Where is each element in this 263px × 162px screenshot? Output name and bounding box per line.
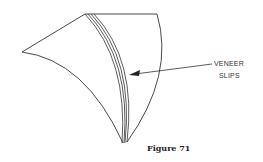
callout-label-line2: SLIPS [219, 72, 240, 79]
arrowhead-icon [129, 70, 140, 76]
wedge-top-edge [22, 14, 85, 52]
wedge-bottom-edge [22, 52, 123, 143]
panel-right-edge [127, 14, 162, 142]
callout-line [135, 64, 212, 74]
callout-label-line1: VENEER [214, 60, 244, 67]
figure-caption: Figure 71 [147, 143, 190, 153]
veneer-slip-4 [94, 14, 129, 142]
veneer-diagram [0, 0, 263, 162]
veneer-slip-2 [88, 14, 125, 143]
veneer-slip-1 [85, 14, 123, 143]
